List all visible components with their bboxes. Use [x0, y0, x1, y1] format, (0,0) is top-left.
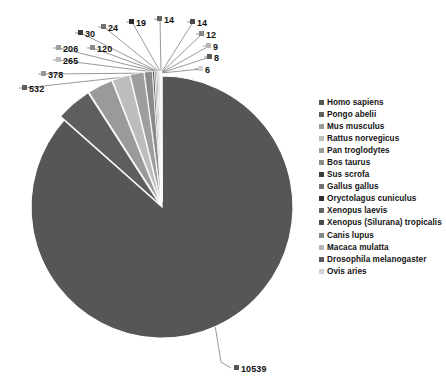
legend-color-swatch-icon — [319, 196, 324, 201]
legend-color-swatch-icon — [319, 100, 324, 105]
slice-value-text: 265 — [63, 56, 78, 66]
slice-value-label: 14 — [190, 17, 207, 28]
slice-value-text: 30 — [85, 29, 95, 39]
legend-color-swatch-icon — [319, 148, 324, 153]
legend-item-label: Drosophila melanogaster — [327, 255, 426, 264]
slice-value-text: 19 — [136, 18, 146, 28]
chart-legend: Homo sapiensPongo abeliiMus musculusRatt… — [319, 96, 445, 277]
slice-value-text: 14 — [197, 18, 207, 28]
legend-item[interactable]: Rattus norvegicus — [319, 132, 445, 144]
legend-item[interactable]: Oryctolagus cuniculus — [319, 193, 445, 205]
slice-color-swatch-icon — [56, 45, 61, 50]
slice-value-text: 14 — [164, 15, 174, 25]
slice-value-label: 12 — [199, 29, 216, 40]
legend-color-swatch-icon — [319, 257, 324, 262]
legend-color-swatch-icon — [319, 184, 324, 189]
legend-color-swatch-icon — [319, 269, 324, 274]
slice-value-text: 12 — [206, 30, 216, 40]
legend-color-swatch-icon — [319, 208, 324, 213]
slice-value-text: 6 — [205, 65, 210, 75]
slice-value-label: 10539 — [234, 363, 267, 374]
leader-line — [154, 19, 161, 73]
slice-value-text: 206 — [63, 44, 78, 54]
legend-item[interactable]: Xenopus laevis — [319, 205, 445, 217]
legend-color-swatch-icon — [319, 112, 324, 117]
slice-value-label: 14 — [157, 14, 174, 25]
legend-item-label: Pan troglodytes — [327, 146, 390, 155]
legend-item[interactable]: Xenopus (Silurana) tropicalis — [319, 217, 445, 229]
slice-value-label: 19 — [129, 17, 146, 28]
slice-color-swatch-icon — [101, 24, 106, 29]
legend-item-label: Canis lupus — [327, 231, 374, 240]
legend-color-swatch-icon — [319, 124, 324, 129]
slice-value-text: 8 — [214, 53, 219, 63]
slice-color-swatch-icon — [190, 19, 195, 24]
legend-item[interactable]: Pan troglodytes — [319, 144, 445, 156]
legend-item-label: Sus scrofa — [327, 170, 369, 179]
legend-item-label: Gallus gallus — [327, 182, 379, 191]
slice-value-label: 6 — [198, 64, 210, 75]
slice-color-swatch-icon — [129, 19, 134, 24]
legend-item[interactable]: Pongo abelii — [319, 108, 445, 120]
slice-value-label: 378 — [41, 69, 63, 80]
slice-color-swatch-icon — [206, 43, 211, 48]
legend-item[interactable]: Canis lupus — [319, 229, 445, 241]
legend-color-swatch-icon — [319, 172, 324, 177]
slice-value-label: 8 — [207, 52, 219, 63]
slice-value-label: 265 — [56, 55, 78, 66]
legend-item[interactable]: Homo sapiens — [319, 96, 445, 108]
legend-item-label: Oryctolagus cuniculus — [327, 194, 416, 203]
legend-item[interactable]: Macaca mulatta — [319, 241, 445, 253]
legend-item[interactable]: Drosophila melanogaster — [319, 253, 445, 265]
leader-line — [75, 33, 161, 73]
slice-value-label: 30 — [78, 28, 95, 39]
slice-value-text: 532 — [29, 84, 44, 94]
slice-value-text: 120 — [97, 44, 112, 54]
legend-item-label: Ovis aries — [327, 267, 367, 276]
legend-item[interactable]: Mus musculus — [319, 120, 445, 132]
legend-item-label: Xenopus (Silurana) tropicalis — [327, 218, 442, 227]
slice-color-swatch-icon — [22, 85, 27, 90]
slice-color-swatch-icon — [78, 30, 83, 35]
slice-value-text: 10539 — [241, 364, 267, 374]
legend-item[interactable]: Gallus gallus — [319, 181, 445, 193]
legend-item[interactable]: Sus scrofa — [319, 169, 445, 181]
legend-item-label: Pongo abelii — [327, 110, 376, 119]
pie-slices — [31, 71, 293, 338]
slice-value-label: 9 — [206, 41, 218, 52]
legend-color-swatch-icon — [319, 245, 324, 250]
slice-color-swatch-icon — [157, 16, 162, 21]
legend-item-label: Xenopus laevis — [327, 206, 387, 215]
slice-color-swatch-icon — [207, 54, 212, 59]
slice-value-label: 120 — [90, 43, 112, 54]
slice-color-swatch-icon — [198, 66, 203, 71]
legend-item-label: Homo sapiens — [327, 98, 384, 107]
legend-item[interactable]: Ovis aries — [319, 265, 445, 277]
legend-color-swatch-icon — [319, 136, 324, 141]
slice-color-swatch-icon — [41, 71, 46, 76]
slice-value-text: 9 — [213, 42, 218, 52]
legend-color-swatch-icon — [319, 233, 324, 238]
leader-line — [215, 325, 231, 368]
legend-color-swatch-icon — [319, 160, 324, 165]
slice-value-label: 24 — [101, 22, 118, 33]
slice-color-swatch-icon — [90, 45, 95, 50]
slice-value-label: 206 — [56, 43, 78, 54]
slice-value-label: 532 — [22, 83, 44, 94]
slice-value-text: 378 — [48, 70, 63, 80]
slice-value-text: 24 — [108, 23, 118, 33]
legend-color-swatch-icon — [319, 220, 324, 225]
legend-item-label: Macaca mulatta — [327, 243, 389, 252]
legend-item-label: Rattus norvegicus — [327, 134, 399, 143]
slice-color-swatch-icon — [56, 57, 61, 62]
legend-item[interactable]: Bos taurus — [319, 156, 445, 168]
slice-color-swatch-icon — [199, 31, 204, 36]
slice-color-swatch-icon — [234, 365, 239, 370]
pie-chart: 10539532378265206120302419141412986 Homo… — [0, 0, 446, 390]
legend-item-label: Bos taurus — [327, 158, 370, 167]
legend-item-label: Mus musculus — [327, 122, 384, 131]
